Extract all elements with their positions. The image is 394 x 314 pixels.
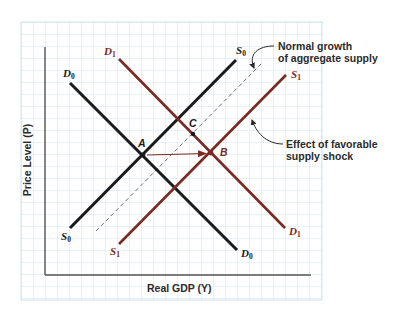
favorable-shock-annotation: Effect of favorable supply shock — [286, 138, 378, 162]
x-axis-label: Real GDP (Y) — [147, 282, 212, 294]
point-b-label: B — [220, 146, 228, 158]
point-a-label: A — [138, 137, 146, 149]
label-s0-bottom: S0 — [61, 230, 71, 244]
label-d1: D1 — [104, 45, 116, 59]
label-d0-bottom: D0 — [241, 247, 253, 261]
label-d1-bottom: D1 — [289, 225, 301, 239]
label-s0-top: S0 — [236, 44, 246, 58]
label-d0: D0 — [63, 67, 75, 81]
label-s1-bottom: S1 — [110, 245, 120, 259]
point-c-dot — [191, 132, 195, 136]
point-b-dot — [209, 151, 214, 156]
graph-paper-grid — [21, 22, 322, 300]
point-c-label: C — [189, 117, 197, 129]
y-axis-label: Price Level (P) — [21, 124, 33, 196]
normal-growth-annotation: Normal growth of aggregate supply — [278, 40, 378, 64]
point-a-dot — [141, 153, 146, 158]
label-s1-top: S1 — [291, 68, 301, 82]
